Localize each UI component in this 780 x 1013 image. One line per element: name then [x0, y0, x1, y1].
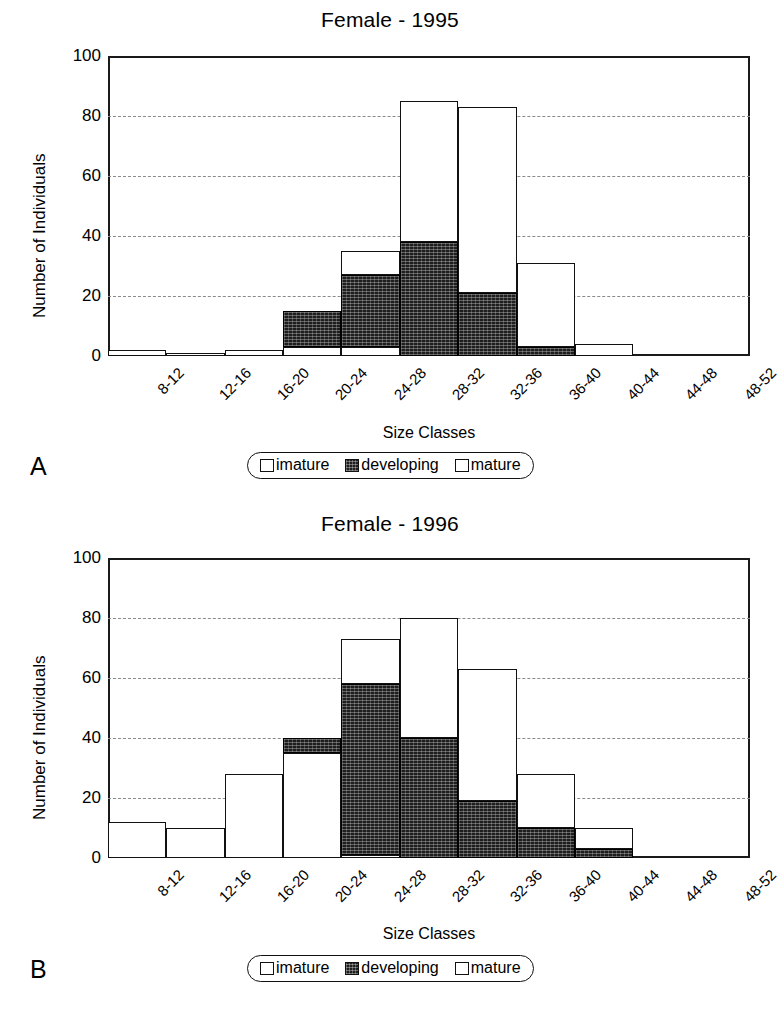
bar-segment-developing [575, 849, 633, 858]
chart-panel-a: Female - 1995 Number of Individuals 0204… [0, 0, 780, 500]
y-tick-label: 20 [82, 788, 101, 808]
bar-segment-imature [108, 822, 166, 858]
bar-segment-imature [225, 774, 283, 858]
bar-segment-imature [283, 347, 341, 356]
bar-column [517, 558, 575, 858]
bar-segment-developing [517, 828, 575, 858]
x-tick-label: 16-20 [273, 364, 312, 403]
y-tick-label: 20 [82, 286, 101, 306]
bar-column [575, 558, 633, 858]
bar-column [341, 558, 399, 858]
bar-column [225, 558, 283, 858]
x-tick-label: 32-36 [507, 364, 546, 403]
legend-item: mature [455, 456, 521, 474]
y-tick-label: 0 [92, 848, 101, 868]
bar-column [458, 558, 516, 858]
y-tick-label: 100 [73, 548, 101, 568]
bar-segment-developing [283, 311, 341, 347]
legend-item: developing [345, 456, 438, 474]
x-tick-label: 16-20 [273, 866, 312, 905]
legend-b: imaturedevelopingmature [247, 955, 534, 982]
bar-segment-mature [458, 669, 516, 801]
legend-label: imature [276, 959, 329, 977]
x-tick-label: 12-16 [215, 364, 254, 403]
bar-segment-developing [517, 347, 575, 356]
x-tick-label: 36-40 [565, 866, 604, 905]
y-tick-label: 40 [82, 226, 101, 246]
x-axis-label-b: Size Classes [108, 925, 750, 943]
bar-column [166, 558, 224, 858]
x-tick-label: 24-28 [390, 866, 429, 905]
legend-label: mature [471, 959, 521, 977]
hatched-square-icon [345, 962, 359, 975]
x-tick-label: 28-32 [448, 866, 487, 905]
chart-title-b: Female - 1996 [0, 512, 780, 536]
legend-label: mature [471, 456, 521, 474]
bar-segment-imature [166, 353, 224, 356]
bar-segment-developing [458, 293, 516, 356]
x-tick-label: 48-52 [740, 364, 779, 403]
bar-segment-mature [458, 107, 516, 293]
x-tick-label: 8-12 [154, 364, 187, 397]
bar-segment-mature [517, 263, 575, 347]
bar-column [283, 56, 341, 356]
bar-series-a [108, 56, 750, 356]
white-square-icon [455, 962, 469, 975]
x-tick-label: 40-44 [623, 364, 662, 403]
bar-column [400, 558, 458, 858]
y-axis-label-a: Number of Individuals [30, 154, 50, 318]
x-tick-label: 32-36 [507, 866, 546, 905]
chart-panel-b: Female - 1996 Number of Individuals 0204… [0, 500, 780, 1013]
bar-segment-developing [400, 738, 458, 858]
bar-segment-developing [400, 242, 458, 356]
bar-column [575, 56, 633, 356]
y-tick-label: 40 [82, 728, 101, 748]
y-tick-label: 0 [92, 346, 101, 366]
bar-column [166, 56, 224, 356]
bar-segment-imature [166, 828, 224, 858]
bar-series-b [108, 558, 750, 858]
bar-segment-imature [283, 753, 341, 858]
x-axis-label-a: Size Classes [108, 424, 750, 442]
legend-label: imature [276, 456, 329, 474]
legend-item: mature [455, 959, 521, 977]
x-tick-label: 44-48 [682, 364, 721, 403]
bar-column [341, 56, 399, 356]
white-square-icon [260, 962, 274, 975]
legend-label: developing [361, 456, 438, 474]
legend-a: imaturedevelopingmature [247, 452, 534, 479]
bar-segment-mature [341, 639, 399, 684]
x-tick-label: 20-24 [332, 866, 371, 905]
x-tick-label: 20-24 [332, 364, 371, 403]
bar-segment-developing [283, 738, 341, 753]
bar-segment-mature [341, 251, 399, 275]
white-square-icon [455, 459, 469, 472]
bar-segment-mature [575, 828, 633, 849]
bar-segment-mature [517, 774, 575, 828]
y-tick-label: 80 [82, 106, 101, 126]
legend-item: imature [260, 456, 329, 474]
white-square-icon [260, 459, 274, 472]
bar-segment-imature [108, 350, 166, 356]
panel-letter-b: B [30, 955, 47, 984]
y-tick-label: 100 [73, 46, 101, 66]
bar-segment-imature [225, 350, 283, 356]
y-tick-label: 60 [82, 166, 101, 186]
x-tick-label: 24-28 [390, 364, 429, 403]
plot-area-a: 020406080100 [108, 56, 750, 356]
x-tick-label: 36-40 [565, 364, 604, 403]
bar-segment-imature [341, 855, 399, 858]
y-tick-label: 80 [82, 608, 101, 628]
bar-column [283, 558, 341, 858]
legend-item: imature [260, 959, 329, 977]
y-tick-label: 60 [82, 668, 101, 688]
bar-segment-imature [341, 347, 399, 356]
hatched-square-icon [345, 459, 359, 472]
x-tick-label: 44-48 [682, 866, 721, 905]
legend-item: developing [345, 959, 438, 977]
bar-column [400, 56, 458, 356]
y-axis-label-b: Number of Individuals [30, 656, 50, 820]
plot-area-b: 020406080100 [108, 558, 750, 858]
bar-segment-developing [458, 801, 516, 858]
x-tick-label: 28-32 [448, 364, 487, 403]
